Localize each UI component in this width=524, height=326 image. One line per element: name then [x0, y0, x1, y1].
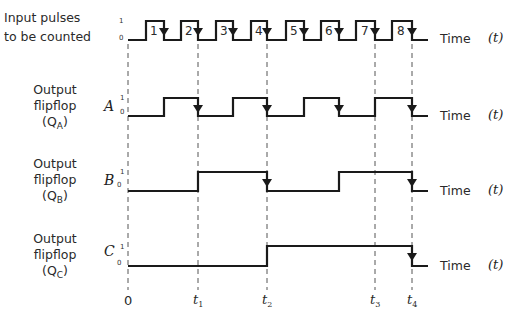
flipflop-a-letter: A	[104, 98, 114, 114]
flipflop-b-waveform	[128, 172, 428, 191]
flipflop-a-label-line1: Output	[20, 82, 90, 98]
flipflop-a-label-line2: flipflop	[20, 98, 90, 114]
flipflop-c-letter: C	[104, 243, 115, 259]
input-level-zero: 0	[119, 34, 123, 42]
flipflop-a-waveform	[128, 98, 428, 116]
flipflop-b-time-label: Time	[440, 183, 471, 198]
time-marker-t2: t2	[262, 292, 272, 309]
flipflop-c-label-line1: Output	[20, 231, 90, 247]
flipflop-b-level-zero: 0	[117, 181, 121, 189]
flipflop-b-label-line2: flipflop	[20, 172, 90, 188]
flipflop-c-label: Output flipflop (QC)	[20, 231, 90, 283]
flipflop-c-label-line3: (QC)	[20, 263, 90, 283]
pulse-number-5: 5	[290, 24, 298, 38]
time-marker-t1: t1	[193, 292, 203, 309]
time-marker-0: 0	[124, 293, 132, 308]
input-time-var: (t)	[488, 30, 503, 45]
flipflop-a-level-zero: 0	[120, 108, 124, 116]
input-label-line1: Input pulses	[4, 10, 91, 26]
flipflop-a-level-one: 1	[120, 94, 124, 102]
flipflop-c-level-one: 1	[120, 243, 124, 251]
flipflop-c-time-label: Time	[440, 258, 471, 273]
input-row-label: Input pulses to be counted	[4, 10, 91, 45]
flipflop-b-label: Output flipflop (QB)	[20, 156, 90, 208]
input-level-one: 1	[119, 17, 123, 25]
pulse-number-1: 1	[150, 24, 158, 38]
pulse-number-2: 2	[185, 24, 193, 38]
pulse-number-8: 8	[397, 24, 405, 38]
input-label-line2: to be counted	[4, 29, 91, 45]
flipflop-a-time-var: (t)	[488, 107, 503, 122]
pulse-number-4: 4	[255, 24, 263, 38]
flipflop-b-time-var: (t)	[488, 182, 503, 197]
flipflop-b-label-line1: Output	[20, 156, 90, 172]
flipflop-b-level-one: 1	[120, 168, 124, 176]
flipflop-c-waveform	[128, 246, 428, 266]
pulse-number-3: 3	[220, 24, 228, 38]
input-time-label: Time	[440, 31, 471, 46]
flipflop-a-label: Output flipflop (QA)	[20, 82, 90, 134]
flipflop-c-level-zero: 0	[117, 259, 121, 267]
pulse-number-6: 6	[325, 24, 333, 38]
time-marker-t4: t4	[407, 292, 417, 309]
input-pulse-waveform	[128, 21, 428, 40]
flipflop-c-time-var: (t)	[488, 257, 503, 272]
flipflop-a-time-label: Time	[440, 108, 471, 123]
flipflop-a-label-line3: (QA)	[20, 114, 90, 134]
pulse-number-7: 7	[361, 24, 369, 38]
flipflop-c-falling-edge-arrows	[407, 253, 417, 261]
time-marker-t3: t3	[370, 292, 380, 309]
time-marker-lines	[128, 44, 412, 290]
flipflop-c-label-line2: flipflop	[20, 247, 90, 263]
input-falling-edge-arrows	[159, 28, 417, 36]
flipflop-b-label-line3: (QB)	[20, 188, 90, 208]
flipflop-b-letter: B	[104, 172, 114, 188]
